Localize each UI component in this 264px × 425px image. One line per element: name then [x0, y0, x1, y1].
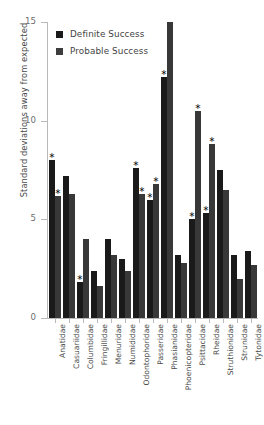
x-tick-mark — [237, 319, 238, 323]
bar-probable — [167, 22, 173, 318]
bar-probable — [237, 279, 243, 318]
bar-group: ∗ — [161, 22, 174, 318]
y-tick-label: 0 — [0, 312, 36, 322]
bar-group: ∗∗ — [203, 22, 216, 318]
bar-probable — [251, 265, 257, 318]
x-tick-label: Phoenicopteridae — [184, 324, 193, 390]
bar-probable: ∗ — [139, 194, 145, 318]
bar-probable: ∗ — [195, 111, 201, 318]
x-tick-label: Anatidae — [58, 324, 67, 358]
x-tick-label: Casuariidae — [72, 324, 81, 369]
bar-group — [175, 22, 188, 318]
x-tick-mark — [209, 319, 210, 323]
x-tick-label: Fringillidae — [100, 324, 109, 365]
bar-chart-figure: Standard deviations away from expected 0… — [0, 0, 264, 425]
legend-swatch-probable-icon — [56, 48, 63, 55]
x-tick-mark — [139, 319, 140, 323]
bar-group: ∗∗ — [147, 22, 160, 318]
bar-group: ∗∗ — [49, 22, 62, 318]
x-tick-mark — [167, 319, 168, 323]
bar-probable — [181, 263, 187, 318]
y-tick-mark — [41, 22, 47, 23]
bar-group — [217, 22, 230, 318]
significance-asterisk-icon: ∗ — [194, 103, 201, 111]
bar-probable — [83, 239, 89, 318]
y-tick-label: 5 — [0, 213, 36, 223]
bar-group — [91, 22, 104, 318]
y-tick-mark — [41, 219, 47, 220]
x-tick-mark — [195, 319, 196, 323]
x-tick-mark — [251, 319, 252, 323]
x-tick-label: Menuridae — [114, 324, 123, 364]
legend-item-probable: Probable Success — [56, 46, 148, 56]
bar-group — [119, 22, 132, 318]
y-tick-mark — [41, 121, 47, 122]
bar-probable — [97, 286, 103, 318]
x-tick-label: Phasianidae — [170, 324, 179, 370]
x-tick-mark — [83, 319, 84, 323]
legend-label-definite: Definite Success — [70, 29, 144, 39]
significance-asterisk-icon: ∗ — [138, 186, 145, 194]
x-tick-label: Struthionidae — [226, 324, 235, 375]
bar-group — [231, 22, 244, 318]
x-tick-mark — [223, 319, 224, 323]
plot-area: ∗∗∗∗∗∗∗∗∗∗∗∗ — [48, 22, 258, 318]
significance-asterisk-icon: ∗ — [54, 188, 61, 196]
x-tick-label: Rheidae — [212, 324, 221, 355]
bar-group: ∗∗ — [133, 22, 146, 318]
significance-asterisk-icon: ∗ — [132, 160, 139, 168]
x-tick-mark — [181, 319, 182, 323]
bar-probable — [69, 194, 75, 318]
x-tick-label: Psittacidae — [198, 324, 207, 366]
bar-group: ∗∗ — [189, 22, 202, 318]
bar-probable: ∗ — [153, 184, 159, 318]
legend-item-definite: Definite Success — [56, 29, 148, 39]
chart-legend: Definite Success Probable Success — [56, 29, 148, 63]
y-tick-label: 15 — [0, 16, 36, 26]
bar-group — [245, 22, 258, 318]
legend-swatch-definite-icon — [56, 31, 63, 38]
x-tick-mark — [125, 319, 126, 323]
x-tick-mark — [55, 319, 56, 323]
bar-probable — [223, 190, 229, 318]
legend-label-probable: Probable Success — [70, 46, 148, 56]
significance-asterisk-icon: ∗ — [48, 152, 55, 160]
bar-group — [105, 22, 118, 318]
bar-probable — [125, 271, 131, 318]
significance-asterisk-icon: ∗ — [152, 176, 159, 184]
x-tick-mark — [153, 319, 154, 323]
y-tick-label: 10 — [0, 115, 36, 125]
x-tick-label: Strunidae — [240, 324, 249, 361]
x-tick-label: Columbidae — [86, 324, 95, 369]
x-tick-label: Numididae — [128, 324, 137, 365]
x-tick-label: Odontophoridae — [142, 324, 151, 386]
bar-group: ∗ — [77, 22, 90, 318]
significance-asterisk-icon: ∗ — [208, 136, 215, 144]
x-tick-label: Tytonidae — [254, 324, 263, 361]
bar-probable — [111, 255, 117, 318]
x-tick-mark — [69, 319, 70, 323]
bar-group — [63, 22, 76, 318]
bar-probable: ∗ — [209, 144, 215, 318]
x-tick-label: Passeridae — [156, 324, 165, 365]
bar-probable: ∗ — [55, 196, 61, 318]
x-tick-mark — [111, 319, 112, 323]
x-tick-mark — [97, 319, 98, 323]
